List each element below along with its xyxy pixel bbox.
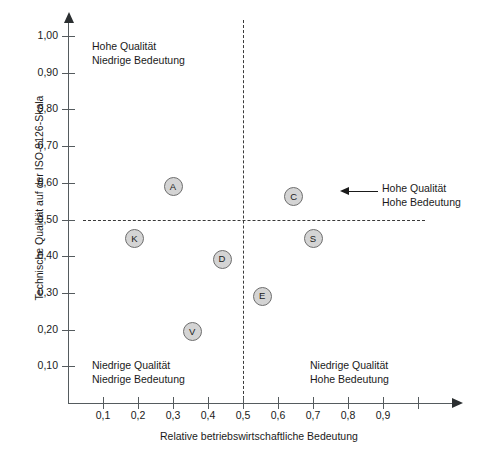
y-axis-title: Technische Qualität auf der ISO-9126-Ska… [33, 73, 45, 323]
y-tick [62, 109, 75, 110]
annotation-bottom-left-line1: Niedrige Qualität [92, 358, 185, 372]
data-point-c: C [284, 187, 303, 206]
data-point-label: C [290, 192, 297, 202]
data-point-label: V [189, 327, 195, 337]
x-axis-arrow-icon [452, 398, 463, 408]
x-tick [103, 397, 104, 409]
x-tick [348, 397, 349, 409]
y-tick [62, 183, 75, 184]
annotation-bottom-right: Niedrige Qualität Hohe Bedeutung [310, 358, 389, 386]
x-tick [173, 397, 174, 409]
quadrant-divider-horizontal [83, 220, 425, 221]
data-point-v: V [183, 322, 202, 341]
annotation-top-left-line1: Hohe Qualität [92, 39, 185, 53]
y-tick-label: 0,10 [14, 359, 58, 371]
annotation-bottom-right-line1: Niedrige Qualität [310, 358, 389, 372]
y-tick [62, 366, 75, 367]
x-axis-title: Relative betriebswirtschaftliche Bedeutu… [160, 430, 460, 442]
callout-arrow-head-icon [340, 187, 349, 195]
data-point-label: S [310, 234, 316, 244]
data-point-label: A [170, 182, 176, 192]
data-point-e: E [253, 287, 272, 306]
y-tick [62, 146, 75, 147]
data-point-label: D [219, 254, 226, 264]
y-tick-label: 0,20 [14, 323, 58, 335]
annotation-callout-line1: Hohe Qualität [382, 181, 461, 195]
y-tick [62, 220, 75, 221]
x-tick-label: 0,4 [191, 409, 225, 421]
annotation-top-left: Hohe Qualität Niedrige Bedeutung [92, 39, 185, 67]
y-tick [62, 330, 75, 331]
x-tick-label: 0,5 [226, 409, 260, 421]
x-tick-label: 0,8 [331, 409, 365, 421]
x-axis-line [68, 403, 453, 404]
x-tick-label: 0,2 [121, 409, 155, 421]
y-axis-line [68, 22, 69, 404]
data-point-s: S [304, 229, 323, 248]
y-tick [62, 293, 75, 294]
x-tick-label: 0,1 [86, 409, 120, 421]
y-tick-label: 1,00 [14, 29, 58, 41]
data-point-label: E [259, 291, 265, 301]
data-point-label: K [131, 234, 137, 244]
annotation-bottom-right-line2: Hohe Bedeutung [310, 372, 389, 386]
data-point-d: D [213, 250, 232, 269]
quadrant-divider-vertical [243, 20, 244, 404]
annotation-bottom-left-line2: Niedrige Bedeutung [92, 372, 185, 386]
x-tick [383, 397, 384, 409]
x-tick [138, 397, 139, 409]
x-tick-label: 0,7 [296, 409, 330, 421]
annotation-top-left-line2: Niedrige Bedeutung [92, 53, 185, 67]
y-tick [62, 36, 75, 37]
callout-arrow-line [348, 191, 378, 192]
y-tick [62, 73, 75, 74]
x-tick-label: 0,3 [156, 409, 190, 421]
y-axis-arrow-icon [64, 12, 74, 23]
data-point-a: A [164, 177, 183, 196]
x-tick [418, 397, 419, 409]
annotation-bottom-left: Niedrige Qualität Niedrige Bedeutung [92, 358, 185, 386]
annotation-callout: Hohe Qualität Hohe Bedeutung [382, 181, 461, 209]
data-point-k: K [125, 229, 144, 248]
x-tick-label: 0,6 [261, 409, 295, 421]
x-tick-label: 0,9 [366, 409, 400, 421]
scatter-chart: 0,100,200,300,400,500,600,700,800,901,00… [0, 0, 477, 461]
y-tick [62, 256, 75, 257]
x-tick [208, 397, 209, 409]
annotation-callout-line2: Hohe Bedeutung [382, 195, 461, 209]
x-tick [243, 397, 244, 409]
x-tick [278, 397, 279, 409]
x-tick [313, 397, 314, 409]
